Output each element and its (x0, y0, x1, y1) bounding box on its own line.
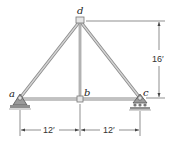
node-label-c: c (143, 87, 149, 98)
joint-b-plate (77, 96, 83, 102)
right-span-label: 12′ (103, 125, 115, 135)
node-label-b: b (84, 87, 90, 98)
height-dimension-label: 16′ (152, 54, 164, 64)
joint-d-plate (76, 17, 84, 23)
node-label-a: a (9, 88, 15, 99)
truss-diagram: d a b c 16′ 12′ 12′ (0, 0, 175, 146)
node-label-d: d (77, 5, 83, 16)
span-dimensions (20, 104, 140, 136)
left-span-label: 12′ (43, 125, 55, 135)
truss-members (20, 21, 140, 99)
